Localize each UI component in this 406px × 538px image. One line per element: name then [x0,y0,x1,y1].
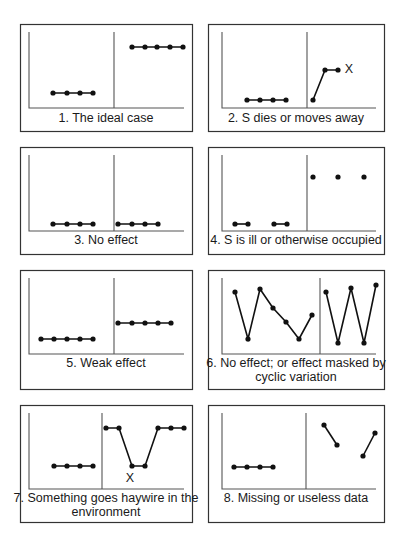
data-point [168,425,173,430]
x-marker: X [345,62,354,76]
panel-caption: 5. Weak effect [66,356,146,370]
data-point [64,90,69,95]
data-point [142,221,147,226]
panel-caption: cyclic variation [255,370,336,384]
data-series [361,174,366,179]
data-point [334,442,339,447]
data-point [77,463,82,468]
data-point [270,464,275,469]
data-point [181,425,186,430]
data-point [116,425,121,430]
data-point [257,286,262,291]
data-series [310,174,315,179]
data-point [335,340,340,345]
data-point [335,174,340,179]
panel-7: X7. Something goes haywire in theenviron… [14,406,199,523]
data-point [155,425,160,430]
data-point [231,464,236,469]
data-point [154,44,159,49]
data-point [77,221,82,226]
panel-3: 3. No effect [21,148,193,255]
x-marker: X [126,471,135,485]
data-point [38,336,43,341]
data-point [284,221,289,226]
data-point [323,289,328,294]
data-point [64,336,69,341]
panel-caption: 6. No effect; or effect masked by [206,356,386,370]
data-point [245,336,250,341]
data-point [310,174,315,179]
data-point [244,464,249,469]
data-point [142,463,147,468]
data-point [361,174,366,179]
data-point [90,221,95,226]
data-point [257,464,262,469]
data-point [90,336,95,341]
data-point [50,221,55,226]
data-point [232,289,237,294]
panel-caption: 7. Something goes haywire in the [14,491,199,505]
data-point [77,336,82,341]
data-point [309,312,314,317]
data-point [270,305,275,310]
data-point [283,319,288,324]
data-point [77,90,82,95]
panel-caption: environment [72,505,141,519]
data-point [103,425,108,430]
data-point [129,221,134,226]
data-point [142,320,147,325]
data-point [372,430,377,435]
panel-5: 5. Weak effect [21,271,193,390]
data-point [51,336,56,341]
panel-caption: 2. S dies or moves away [228,111,365,125]
data-point [373,282,378,287]
data-point [360,453,365,458]
panel-caption: 4. S is ill or otherwise occupied [210,233,382,247]
data-point [310,97,315,102]
data-point [296,336,301,341]
data-point [64,221,69,226]
data-point [129,320,134,325]
panel-caption: 8. Missing or useless data [224,491,369,505]
figure-grid: 1. The ideal caseX2. S dies or moves awa… [0,0,406,538]
data-point [168,320,173,325]
data-point [129,44,134,49]
data-point [283,97,288,102]
panel-caption: 3. No effect [74,233,138,247]
data-point [322,67,327,72]
data-point [64,463,69,468]
panel-frame [21,271,193,390]
data-point [257,97,262,102]
data-point [51,463,56,468]
data-point [244,97,249,102]
data-point [232,221,237,226]
data-point [142,44,147,49]
data-point [129,463,134,468]
data-point [271,221,276,226]
panel-2: X2. S dies or moves away [209,25,385,132]
panel-6: 6. No effect; or effect masked bycyclic … [206,271,386,390]
data-point [115,221,120,226]
data-point [50,90,55,95]
panel-4: 4. S is ill or otherwise occupied [209,148,385,255]
data-point [335,67,340,72]
data-point [321,422,326,427]
data-point [167,44,172,49]
data-point [245,221,250,226]
panel-8: 8. Missing or useless data [209,406,385,523]
data-point [155,320,160,325]
data-point [115,320,120,325]
data-point [90,90,95,95]
data-point [90,463,95,468]
data-point [348,285,353,290]
data-point [270,97,275,102]
panel-1: 1. The ideal case [21,25,193,132]
data-point [155,221,160,226]
data-series [335,174,340,179]
panel-caption: 1. The ideal case [59,111,154,125]
data-point [180,44,185,49]
data-point [361,340,366,345]
